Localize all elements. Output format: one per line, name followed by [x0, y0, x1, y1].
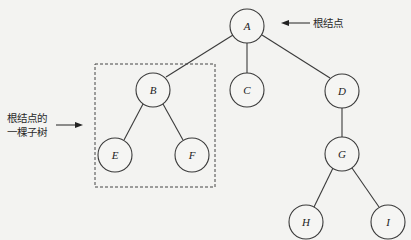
tree-diagram: A B C D E F G H I 根结点 根结点的 一棵子树	[0, 0, 411, 240]
node-f: F	[175, 138, 209, 172]
node-d: D	[325, 74, 359, 108]
edge-g-i	[352, 168, 379, 207]
subtree-annotation: 根结点的 一棵子树	[7, 112, 83, 138]
node-d-label: D	[337, 85, 346, 97]
subtree-arrow-head-icon	[75, 122, 83, 128]
node-h-label: H	[301, 216, 311, 228]
edge-b-f	[163, 104, 183, 140]
node-e: E	[98, 138, 132, 172]
subtree-label-line2: 一棵子树	[7, 126, 48, 138]
edge-g-h	[314, 168, 333, 207]
node-a: A	[230, 9, 264, 43]
node-c-label: C	[243, 84, 251, 96]
subtree-label-line1: 根结点的	[7, 112, 47, 124]
edges	[124, 35, 379, 207]
node-i: I	[371, 205, 405, 239]
edge-a-d	[262, 35, 330, 78]
root-label: 根结点	[313, 17, 343, 29]
node-h: H	[289, 205, 323, 239]
node-g: G	[325, 137, 359, 171]
node-g-label: G	[338, 148, 346, 160]
root-arrow-head-icon	[281, 20, 289, 26]
node-c: C	[230, 73, 264, 107]
node-b-label: B	[150, 84, 157, 96]
edge-a-b	[166, 35, 233, 77]
edge-b-e	[124, 104, 143, 140]
node-f-label: F	[188, 149, 196, 161]
node-a-label: A	[243, 20, 251, 32]
node-b: B	[136, 73, 170, 107]
node-e-label: E	[111, 149, 119, 161]
root-annotation: 根结点	[281, 17, 343, 29]
